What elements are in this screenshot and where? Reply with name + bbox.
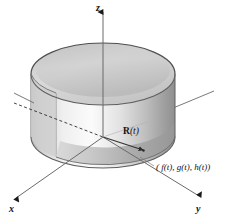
vector-label: R(t) bbox=[123, 126, 139, 137]
diagram-svg: z x y R(t) ( f(t), g(t), h(t)) bbox=[0, 0, 234, 216]
x-axis-far-segment bbox=[190, 91, 214, 101]
figure-container: z x y R(t) ( f(t), g(t), h(t)) bbox=[0, 0, 234, 216]
point-coordinates-label: ( f(t), g(t), h(t)) bbox=[156, 162, 210, 172]
x-axis-label: x bbox=[8, 203, 14, 214]
point-marker bbox=[142, 149, 144, 151]
vector-label-arg: (t) bbox=[130, 126, 139, 137]
z-axis-label: z bbox=[95, 2, 100, 13]
y-axis-label: y bbox=[195, 203, 201, 214]
